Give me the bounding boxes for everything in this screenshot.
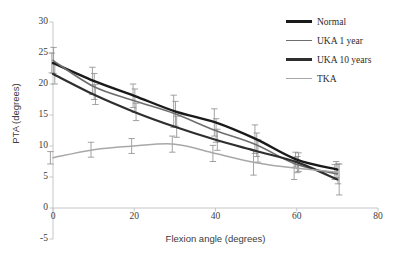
legend-item[interactable]: Normal <box>286 12 406 31</box>
legend-line-swatch <box>286 58 312 60</box>
legend-item[interactable]: UKA 1 year <box>286 31 406 50</box>
y-tick-label: 20 <box>22 79 48 89</box>
y-tick-label: 10 <box>22 141 48 151</box>
y-tick-label: -5 <box>22 234 48 244</box>
x-tick-label: 40 <box>201 212 231 222</box>
x-axis-title: Flexion angle (degrees) <box>53 233 378 244</box>
y-tick-label: 30 <box>22 17 48 27</box>
x-tick-label: 60 <box>282 212 312 222</box>
legend-item-label: UKA 1 year <box>317 36 363 46</box>
legend-item-label: Normal <box>317 17 346 27</box>
legend-item-label: UKA 10 years <box>317 55 371 65</box>
x-tick-label: 0 <box>38 212 68 222</box>
legend-line-swatch <box>286 78 312 80</box>
chart-legend: NormalUKA 1 yearUKA 10 yearsTKA <box>286 12 406 88</box>
legend-item-label: TKA <box>317 74 337 84</box>
y-tick-label: 15 <box>22 110 48 120</box>
y-axis-title: PTA (degrees) <box>10 59 21 169</box>
y-tick-label: 5 <box>22 172 48 182</box>
x-tick-label: 80 <box>363 212 393 222</box>
y-tick-label: 25 <box>22 48 48 58</box>
chart-figure: 302520151050-5 020406080 Flexion angle (… <box>0 0 409 261</box>
legend-line-swatch <box>286 20 312 23</box>
x-axis-tick-labels: 020406080 <box>0 212 409 226</box>
legend-item[interactable]: TKA <box>286 69 406 88</box>
x-tick-label: 20 <box>119 212 149 222</box>
legend-item[interactable]: UKA 10 years <box>286 50 406 69</box>
legend-line-swatch <box>286 40 312 42</box>
